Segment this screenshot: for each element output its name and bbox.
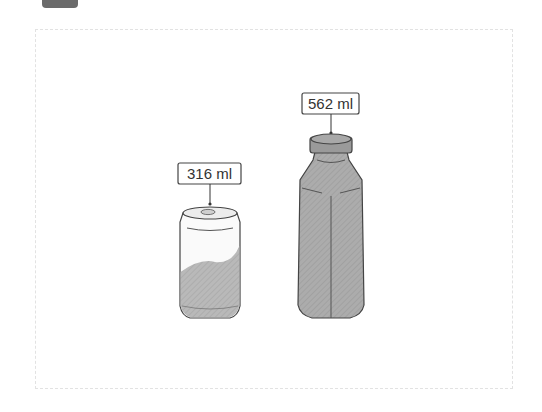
can-illustration: 316 ml [178,163,241,318]
can-volume-label: 316 ml [187,165,232,182]
bottle-volume-label: 562 ml [308,95,353,112]
bottle-illustration: 562 ml [298,93,364,318]
containers-diagram: 316 ml 562 ml [0,0,542,412]
